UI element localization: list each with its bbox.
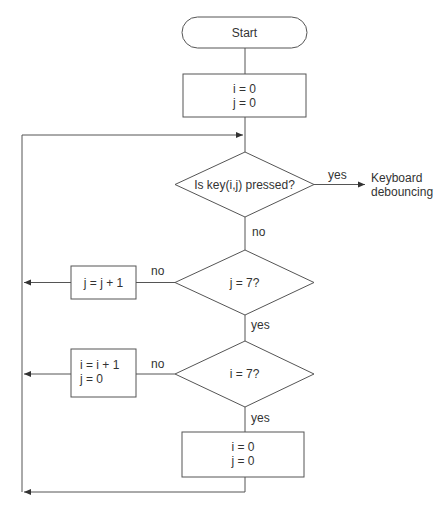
debounce-line1: Keyboard (371, 171, 422, 185)
decision-key-label: Is key(i,j) pressed? (175, 178, 314, 192)
key-yes-label: yes (328, 168, 347, 182)
debounce-line2: debouncing (371, 185, 433, 199)
init-line1: i = 0 (183, 82, 306, 96)
i-yes-label: yes (251, 411, 270, 425)
start-label: Start (182, 26, 307, 40)
flowchart-canvas (0, 0, 442, 507)
i-no-label: no (151, 357, 164, 371)
inc-j-label: j = j + 1 (71, 276, 136, 290)
key-no-label: no (252, 225, 265, 239)
init-line2: j = 0 (183, 96, 306, 110)
decision-i-label: i = 7? (175, 367, 314, 381)
decision-j-label: j = 7? (175, 276, 314, 290)
inc-i-line2: j = 0 (80, 372, 103, 386)
j-no-label: no (151, 264, 164, 278)
inc-i-line1: i = i + 1 (80, 358, 119, 372)
j-yes-label: yes (251, 318, 270, 332)
reset-line1: i = 0 (182, 440, 304, 454)
reset-line2: j = 0 (182, 454, 304, 468)
